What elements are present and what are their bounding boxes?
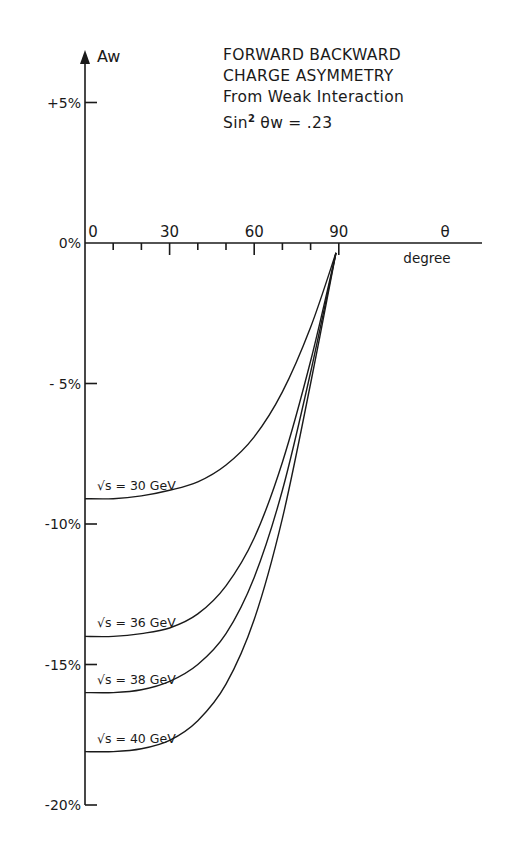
- y-tick-label: -15%: [45, 657, 81, 673]
- curve-30gev: [85, 253, 336, 499]
- curve-label: √s = 40 GeV: [97, 731, 176, 746]
- x-axis-symbol: θ: [440, 223, 449, 241]
- y-tick-label: +5%: [47, 95, 81, 111]
- chart-subtitle: From Weak Interaction: [223, 87, 404, 108]
- y-tick-label: -20%: [45, 797, 81, 813]
- y-tick-label: 0%: [59, 235, 81, 251]
- angle-value: θw = .23: [255, 114, 332, 132]
- x-axis-unit: degree: [403, 250, 450, 266]
- y-axis-arrow-icon: [80, 50, 90, 64]
- x-tick-label: 0: [88, 223, 98, 241]
- x-tick-label: 30: [160, 223, 179, 241]
- y-tick-label: -10%: [45, 516, 81, 532]
- weinberg-angle-annotation: Sin2 θw = .23: [223, 108, 404, 134]
- chart-title-line-1: FORWARD BACKWARD: [223, 45, 404, 66]
- x-tick-label: 60: [245, 223, 264, 241]
- y-tick-label: - 5%: [49, 376, 81, 392]
- curve-label: √s = 30 GeV: [97, 478, 176, 493]
- curve-label: √s = 38 GeV: [97, 672, 176, 687]
- y-axis-label: Aw: [97, 47, 120, 66]
- curve-label: √s = 36 GeV: [97, 615, 176, 630]
- chart-title-block: FORWARD BACKWARD CHARGE ASYMMETRY From W…: [223, 45, 404, 134]
- x-tick-label: 90: [329, 223, 348, 241]
- axes: [80, 50, 482, 805]
- sin-text: Sin: [223, 114, 248, 132]
- labels: 0306090θdegreeAw+5%0%- 5%-10%-15%-20%√s …: [45, 47, 451, 813]
- chart-title-line-2: CHARGE ASYMMETRY: [223, 66, 404, 87]
